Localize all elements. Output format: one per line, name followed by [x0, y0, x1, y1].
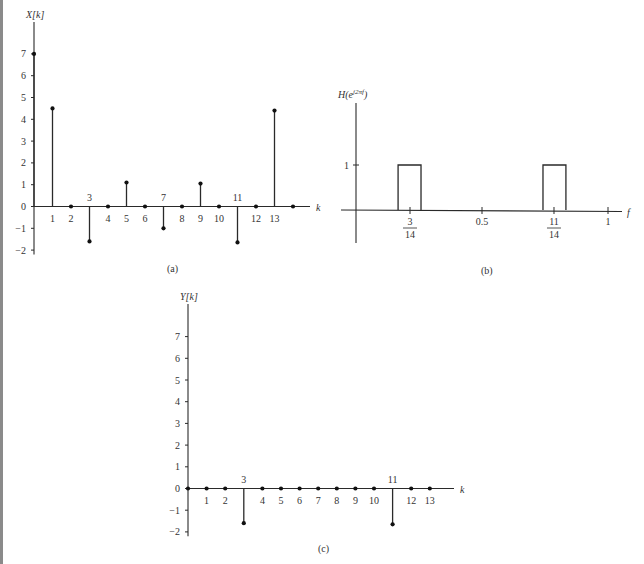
y-axis-label: H(ej2πf) — [337, 88, 368, 101]
stem-marker — [316, 486, 320, 490]
x-axis-label: k — [316, 202, 321, 213]
stem-marker — [50, 106, 54, 110]
x-tick-label-numerator: 3 — [408, 216, 413, 227]
x-tick-label: 1 — [204, 495, 209, 506]
stem-marker — [69, 204, 73, 208]
stem-marker — [198, 182, 202, 186]
panel-c-stem-plot: Y[k]k−2−10123456712456789101213311 — [169, 291, 465, 537]
x-tick-label: 6 — [143, 213, 148, 224]
stem-marker — [391, 522, 395, 526]
stem-marker — [186, 486, 190, 490]
stem-marker — [353, 486, 357, 490]
x-tick-label: 7 — [316, 495, 321, 506]
x-tick-label: 3 — [87, 192, 92, 203]
y-tick-label: 2 — [21, 157, 26, 168]
y-tick-label: 1 — [21, 179, 26, 190]
panel-b-frequency-response: 1H(ej2πf)f3140.511141 — [337, 88, 631, 243]
x-tick-label: 9 — [353, 495, 358, 506]
x-tick-label: 9 — [198, 213, 203, 224]
y-tick-label: 1 — [344, 160, 349, 171]
x-tick-label: 0.5 — [476, 216, 489, 227]
stem-marker — [217, 204, 221, 208]
y-axis-label: Y[k] — [180, 291, 198, 302]
x-tick-label: 11 — [388, 474, 398, 485]
y-tick-label: −1 — [169, 505, 180, 516]
stem-marker — [272, 108, 276, 112]
stem-marker — [87, 239, 91, 243]
x-tick-label: 8 — [180, 213, 185, 224]
panel-a-stem-plot: X[k]k−2−10123456712456891012133711 — [15, 9, 321, 256]
stem-marker — [260, 486, 264, 490]
y-tick-label: 2 — [175, 440, 180, 451]
x-tick-label: 11 — [233, 192, 243, 203]
y-tick-label: 4 — [21, 114, 26, 125]
x-tick-label-numerator: 11 — [549, 216, 559, 227]
caption-b: (b) — [481, 265, 493, 276]
x-tick-label-denominator: 14 — [405, 229, 415, 240]
stem-marker — [291, 204, 295, 208]
stem-marker — [372, 486, 376, 490]
y-tick-label: −2 — [15, 245, 26, 256]
x-tick-label: 3 — [241, 474, 246, 485]
stem-marker — [143, 204, 147, 208]
stem-marker — [298, 486, 302, 490]
stem-marker — [428, 486, 432, 490]
x-tick-label: 6 — [297, 495, 302, 506]
stem-marker — [409, 486, 413, 490]
stem-marker — [242, 521, 246, 525]
y-tick-label: 1 — [175, 461, 180, 472]
y-tick-label: 0 — [175, 483, 180, 494]
passband-rect — [398, 165, 421, 210]
stem-marker — [205, 486, 209, 490]
x-tick-label: 8 — [334, 495, 339, 506]
x-tick-label: 7 — [161, 192, 166, 203]
x-tick-label: 5 — [124, 213, 129, 224]
y-axis-label: X[k] — [25, 9, 44, 20]
stem-marker — [180, 204, 184, 208]
x-tick-label: 13 — [270, 213, 280, 224]
stem-marker — [235, 240, 239, 244]
y-tick-label: 4 — [175, 396, 180, 407]
caption-c: (c) — [318, 543, 329, 554]
y-tick-label: 7 — [21, 48, 26, 59]
stem-marker — [335, 486, 339, 490]
caption-a: (a) — [167, 263, 178, 274]
stem-marker — [223, 486, 227, 490]
stem-marker — [254, 204, 258, 208]
x-tick-label: 4 — [260, 495, 265, 506]
x-axis-label: k — [460, 484, 465, 495]
x-tick-label: 10 — [369, 495, 379, 506]
y-tick-label: 3 — [21, 136, 26, 147]
x-tick-label: 4 — [106, 213, 111, 224]
x-axis-label: f — [627, 207, 631, 218]
y-tick-label: 5 — [175, 375, 180, 386]
x-tick-label: 1 — [50, 213, 55, 224]
y-tick-label: 6 — [175, 353, 180, 364]
x-tick-label: 12 — [251, 213, 261, 224]
stem-marker — [106, 204, 110, 208]
x-tick-label: 5 — [279, 495, 284, 506]
x-tick-label: 1 — [606, 216, 611, 227]
y-tick-label: −1 — [15, 223, 26, 234]
x-tick-label: 2 — [69, 213, 74, 224]
y-tick-label: 6 — [21, 70, 26, 81]
figure-canvas: X[k]k−2−10123456712456891012133711 1H(ej… — [0, 0, 644, 564]
stem-marker — [32, 52, 36, 56]
passband-rect — [543, 165, 566, 210]
stem-marker — [161, 226, 165, 230]
x-tick-label: 13 — [425, 495, 435, 506]
y-tick-label: 0 — [21, 201, 26, 212]
stem-marker — [279, 486, 283, 490]
stem-marker — [124, 180, 128, 184]
y-tick-label: −2 — [169, 526, 180, 537]
x-tick-label: 2 — [223, 495, 228, 506]
y-tick-label: 3 — [175, 418, 180, 429]
x-tick-label: 12 — [406, 495, 416, 506]
y-tick-label: 5 — [21, 92, 26, 103]
x-tick-label-denominator: 14 — [549, 229, 559, 240]
x-tick-label: 10 — [214, 213, 224, 224]
y-tick-label: 7 — [175, 331, 180, 342]
